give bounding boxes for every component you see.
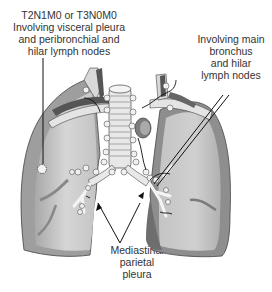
lung-illustration xyxy=(0,0,272,292)
tumor-visceral-pleura xyxy=(38,165,47,174)
arrowheads xyxy=(96,192,144,211)
